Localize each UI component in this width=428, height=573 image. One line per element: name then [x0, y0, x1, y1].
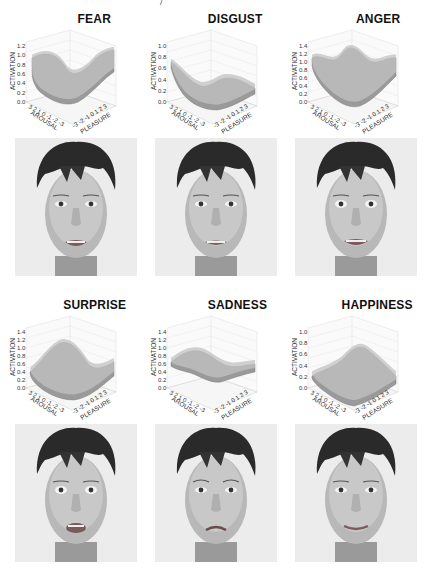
svg-text:ACTIVATION: ACTIVATION — [150, 52, 157, 90]
z-tick: 0.6 — [17, 361, 26, 367]
avatar-face-disgust — [155, 138, 277, 276]
z-tick: 0.0 — [299, 99, 308, 105]
z-tick: 0.2 — [299, 91, 308, 97]
z-tick: 0.4 — [17, 369, 26, 375]
surface-plot-svg: 0.00.20.40.60.81.01.21.4 ACTIVATION AROU… — [6, 314, 134, 432]
z-tick: 0.0 — [158, 385, 167, 391]
z-tick: 0.2 — [299, 374, 308, 380]
svg-text:ACTIVATION: ACTIVATION — [150, 338, 157, 376]
z-tick: 0.8 — [299, 340, 308, 346]
z-tick: 0.0 — [299, 385, 308, 391]
z-tick: 1.2 — [17, 337, 26, 343]
z-tick: 1.4 — [299, 43, 308, 49]
z-tick: 0.6 — [17, 71, 26, 77]
z-tick: 1.0 — [17, 345, 26, 351]
avatar-face-fear — [15, 138, 137, 276]
z-tick: 0.6 — [299, 75, 308, 81]
activation-surface-plot: 0.00.20.40.60.81.01.21.4 ACTIVATION AROU… — [288, 28, 416, 150]
z-tick: 1.2 — [17, 43, 26, 49]
avatar-face-anger — [295, 138, 417, 276]
activation-surface-plot: 0.00.20.40.60.81.01.2 ACTIVATION AROUSAL… — [6, 28, 134, 150]
z-tick: 1.0 — [158, 345, 167, 351]
z-tick: 1.0 — [158, 43, 167, 49]
z-tick: 0.4 — [158, 77, 167, 83]
z-tick: 0.2 — [17, 377, 26, 383]
avatar-face-sadness — [155, 424, 277, 562]
z-tick: 1.0 — [299, 59, 308, 65]
z-tick: 0.2 — [17, 90, 26, 96]
z-tick: 0.4 — [158, 369, 167, 375]
avatar-face-surprise — [15, 424, 137, 562]
z-tick: 1.2 — [158, 337, 167, 343]
z-tick: 1.4 — [158, 329, 167, 335]
z-tick: 1.0 — [299, 329, 308, 335]
z-tick: 0.4 — [17, 80, 26, 86]
z-tick: 0.6 — [158, 65, 167, 71]
activation-surface-plot: 0.00.20.40.60.81.0 ACTIVATION AROUSAL PL… — [288, 314, 416, 436]
svg-text:ACTIVATION: ACTIVATION — [291, 338, 298, 376]
z-tick: 0.0 — [158, 99, 167, 105]
z-tick: 0.2 — [158, 88, 167, 94]
activation-surface-plot: 0.00.20.40.60.81.01.21.4 ACTIVATION AROU… — [6, 314, 134, 436]
z-tick: 0.8 — [17, 353, 26, 359]
z-tick: 0.8 — [17, 62, 26, 68]
activation-surface-plot: 0.00.20.40.60.81.01.21.4 ACTIVATION AROU… — [147, 314, 275, 436]
z-tick: 0.4 — [299, 83, 308, 89]
z-tick: 1.4 — [17, 329, 26, 335]
svg-text:ACTIVATION: ACTIVATION — [9, 52, 16, 90]
z-tick: 0.8 — [158, 54, 167, 60]
z-tick: 0.8 — [158, 353, 167, 359]
surface-plot-svg: 0.00.20.40.60.81.0 ACTIVATION AROUSAL PL… — [288, 314, 416, 432]
panel-title: FEAR — [78, 12, 111, 26]
z-tick: 0.2 — [158, 377, 167, 383]
panel-title: HAPPINESS — [342, 298, 413, 312]
caption-fragment: / — [160, 0, 162, 7]
surface-plot-svg: 0.00.20.40.60.81.0 ACTIVATION AROUSAL PL… — [147, 28, 275, 146]
z-tick: 0.8 — [299, 67, 308, 73]
surface-plot-svg: 0.00.20.40.60.81.01.21.4 ACTIVATION AROU… — [147, 314, 275, 432]
panel-title: SURPRISE — [63, 298, 126, 312]
z-tick: 0.6 — [158, 361, 167, 367]
panel-title: SADNESS — [208, 298, 267, 312]
surface-plot-svg: 0.00.20.40.60.81.01.2 ACTIVATION AROUSAL… — [6, 28, 134, 146]
svg-text:ACTIVATION: ACTIVATION — [291, 52, 298, 90]
z-tick: 1.2 — [299, 51, 308, 57]
z-tick: 0.0 — [17, 99, 26, 105]
z-tick: 0.6 — [299, 351, 308, 357]
z-tick: 0.4 — [299, 363, 308, 369]
panel-title: ANGER — [356, 12, 400, 26]
z-tick: 0.0 — [17, 385, 26, 391]
surface-plot-svg: 0.00.20.40.60.81.01.21.4 ACTIVATION AROU… — [288, 28, 416, 146]
avatar-face-happiness — [295, 424, 417, 562]
panel-title: DISGUST — [208, 12, 263, 26]
svg-text:ACTIVATION: ACTIVATION — [9, 338, 16, 376]
activation-surface-plot: 0.00.20.40.60.81.0 ACTIVATION AROUSAL PL… — [147, 28, 275, 150]
z-tick: 1.0 — [17, 52, 26, 58]
